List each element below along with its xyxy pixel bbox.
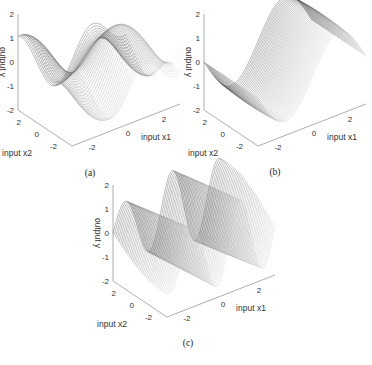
mesh-line xyxy=(21,28,129,84)
x2-tick-label: 0 xyxy=(221,130,226,139)
z-tick-label: 1 xyxy=(10,34,15,43)
x2-tick-label: 2 xyxy=(112,289,117,298)
x2-tick-label: 0 xyxy=(35,130,40,139)
mesh-line xyxy=(213,0,321,93)
z-axis-label: output y xyxy=(93,218,103,249)
mesh-line xyxy=(253,28,361,120)
z-tick-label: 0 xyxy=(10,58,15,67)
mesh-line xyxy=(154,192,262,285)
x1-tick-label: 0 xyxy=(221,300,226,309)
z-axis-label: output y xyxy=(184,47,194,78)
x2-axis-label: input x2 xyxy=(188,148,218,158)
x1-axis-label: input x1 xyxy=(327,132,357,142)
panel-a: 210-1-220-2-202output yinput x2input x1(… xyxy=(0,10,180,179)
z-axis-label: output y xyxy=(0,47,8,78)
z-tick-label: 1 xyxy=(105,205,110,214)
x2-axis-label: input x2 xyxy=(2,148,32,158)
mesh-line xyxy=(44,26,152,82)
x1-tick-label: 2 xyxy=(348,115,353,124)
caption-a: (a) xyxy=(85,168,96,179)
caption-c: (c) xyxy=(183,338,194,349)
z-tick-label: -1 xyxy=(7,82,15,91)
z-tick-label: -1 xyxy=(193,82,201,91)
x1-tick-label: 2 xyxy=(257,286,262,295)
x2-tick-label: 2 xyxy=(203,118,208,127)
z-tick-label: 2 xyxy=(10,10,15,19)
x1-axis-label: input x1 xyxy=(236,303,266,313)
x2-axis xyxy=(18,110,72,146)
axes xyxy=(113,185,275,317)
z-tick-label: -2 xyxy=(193,106,201,115)
mesh-line xyxy=(210,0,318,91)
z-tick-label: -2 xyxy=(102,277,110,286)
z-tick-label: 0 xyxy=(196,58,201,67)
mesh-line xyxy=(207,0,315,88)
x2-tick-label: -2 xyxy=(236,142,244,151)
mesh-line xyxy=(62,40,170,118)
x1-tick-label: -2 xyxy=(88,143,96,152)
caption-b: (b) xyxy=(269,167,280,178)
mesh-line xyxy=(205,0,313,87)
mesh-line xyxy=(209,0,317,90)
z-tick-label: -1 xyxy=(102,253,110,262)
panel-b: 210-1-220-2-202output yinput x2input x1(… xyxy=(184,0,366,178)
x1-tick-label: 0 xyxy=(312,129,317,138)
z-tick-label: 0 xyxy=(105,229,110,238)
z-tick-label: 2 xyxy=(196,10,201,19)
z-tick-label: -2 xyxy=(7,106,15,115)
panel-c: 210-1-220-2-202output yinput x2input x1(… xyxy=(93,158,275,349)
mesh-line xyxy=(45,25,153,84)
x2-tick-label: 0 xyxy=(130,301,135,310)
x2-tick-label: -2 xyxy=(145,313,153,322)
figure-canvas: 210-1-220-2-202output yinput x2input x1(… xyxy=(0,0,372,365)
mesh-line xyxy=(208,0,316,89)
z-tick-label: 2 xyxy=(105,181,110,190)
mesh-line xyxy=(18,23,126,86)
mesh-line xyxy=(61,38,169,118)
x2-tick-label: 2 xyxy=(17,118,22,127)
x2-axis xyxy=(204,110,258,146)
x1-tick-label: 0 xyxy=(126,129,131,138)
x1-axis-label: input x1 xyxy=(141,132,171,142)
surface-mesh xyxy=(204,0,366,122)
surface-mesh xyxy=(18,23,180,121)
surface-mesh xyxy=(113,158,275,294)
x1-tick-label: -2 xyxy=(183,314,191,323)
mesh-line xyxy=(251,26,359,118)
mesh-line xyxy=(249,25,357,118)
x2-tick-label: -2 xyxy=(50,142,58,151)
x2-axis-label: input x2 xyxy=(97,319,127,329)
x1-tick-label: -2 xyxy=(274,143,282,152)
mesh-line xyxy=(211,0,319,92)
x1-tick-label: 2 xyxy=(162,115,167,124)
z-tick-label: 1 xyxy=(196,34,201,43)
